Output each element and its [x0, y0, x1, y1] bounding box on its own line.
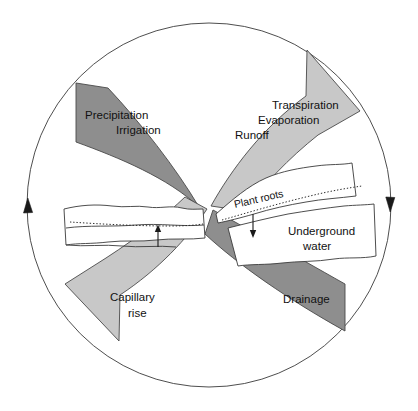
arrow-precipitation-irrigation — [76, 83, 199, 207]
left-soil-block — [64, 205, 205, 247]
label-evaporation: Evaporation — [258, 114, 319, 126]
label-transpiration: Transpiration — [272, 99, 339, 111]
label-drainage: Drainage — [283, 293, 330, 305]
label-irrigation: Irrigation — [116, 124, 161, 136]
outer-circle-group — [24, 23, 395, 387]
label-capillary: Capillary — [110, 291, 155, 303]
outer-circle — [27, 23, 391, 387]
label-underground: Underground — [288, 225, 355, 237]
water-cycle-diagram: Precipitation Irrigation Transpiration E… — [0, 0, 418, 411]
arrow-precipitation-body — [76, 83, 199, 207]
cycle-svg-canvas: Precipitation Irrigation Transpiration E… — [0, 0, 418, 411]
label-precipitation: Precipitation — [85, 109, 148, 121]
label-runoff: Runoff — [235, 129, 269, 141]
label-rise: rise — [128, 307, 147, 319]
circle-arrowhead-right-down-icon — [386, 197, 395, 212]
circle-arrowhead-left-up-icon — [24, 198, 33, 213]
label-water: water — [302, 240, 331, 252]
